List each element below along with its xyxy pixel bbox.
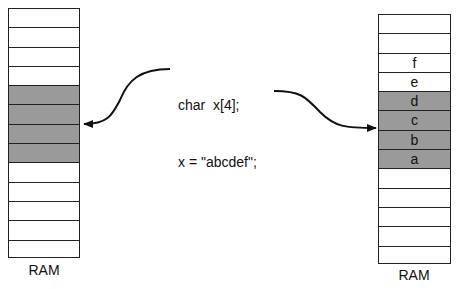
arrow-to-left-ram-icon <box>84 69 170 124</box>
arrow-to-right-ram-icon <box>274 91 376 128</box>
arrows-layer <box>0 0 458 289</box>
